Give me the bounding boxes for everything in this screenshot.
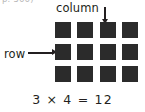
- array-square: [55, 44, 71, 60]
- array-square: [100, 66, 116, 82]
- column-label: column: [56, 2, 99, 14]
- array-square: [100, 22, 116, 38]
- array-square: [100, 44, 116, 60]
- array-model-figure: p. 566) column row 3 × 4 = 12: [0, 0, 145, 112]
- square-array-grid: [55, 22, 138, 82]
- row-label: row: [4, 48, 25, 60]
- multiplication-equation: 3 × 4 = 12: [0, 92, 145, 107]
- array-square: [77, 44, 93, 60]
- page-reference: p. 566): [2, 0, 34, 4]
- array-square: [77, 66, 93, 82]
- arrow-down-icon: [104, 7, 106, 20]
- array-square: [122, 44, 138, 60]
- array-square: [122, 66, 138, 82]
- array-square: [55, 22, 71, 38]
- array-square: [77, 22, 93, 38]
- array-square: [122, 22, 138, 38]
- arrow-right-icon: [28, 52, 52, 54]
- array-square: [55, 66, 71, 82]
